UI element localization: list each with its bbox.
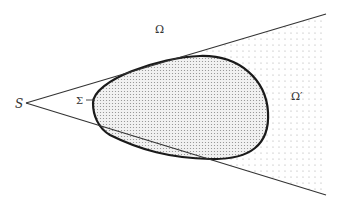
sigma-curve <box>93 56 268 159</box>
vertex-label-s: S <box>15 97 23 111</box>
omega-label: Ω <box>155 23 164 36</box>
sigma-label: Σ <box>76 95 83 106</box>
cone-diagram: S Σ Ω Ω′ <box>0 0 344 207</box>
omega-prime-label: Ω′ <box>291 90 303 103</box>
